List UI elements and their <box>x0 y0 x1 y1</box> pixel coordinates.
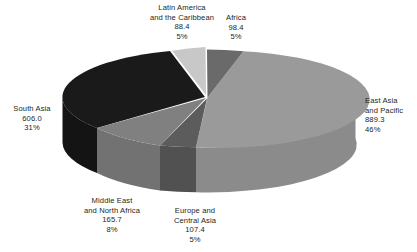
slice-label-percent: 5% <box>203 32 269 42</box>
slice-label-africa: Africa 98.4 5% <box>203 13 269 42</box>
slice-label-line-1: Africa <box>203 13 269 23</box>
slice-label-value: 98.4 <box>203 23 269 33</box>
slice-label-line-1: South Asia <box>2 104 62 114</box>
slice-label-south-asia: South Asia 606.0 31% <box>2 104 62 133</box>
pie-top-faces <box>62 47 369 148</box>
slice-side-europe-and-central-asia <box>160 146 196 193</box>
slice-label-east-asia-and-pacific: East Asia and Pacific 889.3 46% <box>365 96 417 134</box>
slice-label-value: 889.3 <box>365 115 417 125</box>
slice-label-line-1: Middle East <box>68 196 156 206</box>
slice-label-percent: 46% <box>365 125 417 135</box>
slice-label-line-1: Latin America <box>115 3 249 13</box>
slice-label-value: 165.7 <box>68 215 156 225</box>
slice-label-middle-east-and-north-africa: Middle East and North Africa 165.7 8% <box>68 196 156 234</box>
slice-label-percent: 5% <box>158 235 232 245</box>
slice-label-line-2: and Pacific <box>365 106 417 116</box>
slice-label-line-2: and North Africa <box>68 206 156 216</box>
slice-label-line-2: Central Asia <box>158 216 232 226</box>
slice-label-line-1: East Asia <box>365 96 417 106</box>
slice-label-value: 606.0 <box>2 114 62 124</box>
slice-label-value: 107.4 <box>158 225 232 235</box>
pie-chart-figure: Latin America and the Caribbean 88.4 5% … <box>0 0 417 252</box>
slice-label-line-1: Europe and <box>158 206 232 216</box>
slice-label-percent: 8% <box>68 225 156 235</box>
slice-label-europe-and-central-asia: Europe and Central Asia 107.4 5% <box>158 206 232 244</box>
slice-label-percent: 31% <box>2 123 62 133</box>
